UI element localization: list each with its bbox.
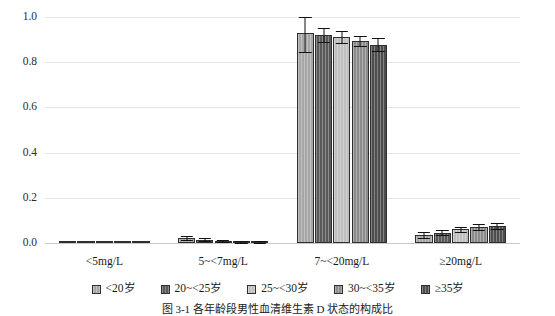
bar[interactable]	[77, 241, 94, 243]
bar-slot	[370, 17, 387, 243]
error-bar-cap-top	[217, 240, 229, 241]
y-tick-label: 0.8	[23, 56, 37, 68]
error-bar-cap-bottom	[317, 42, 329, 43]
error-bar-cap-top	[473, 224, 485, 225]
x-tick-label: <5mg/L	[86, 252, 123, 270]
legend-label: ≥35岁	[435, 283, 464, 295]
bar-group	[164, 17, 283, 243]
error-bar-cap-bottom	[491, 229, 503, 230]
legend-swatch-icon	[161, 285, 170, 294]
bar[interactable]	[59, 241, 76, 243]
error-bar-cap-bottom	[199, 241, 211, 242]
error-bar-cap-bottom	[336, 43, 348, 44]
legend-label: 25~<30岁	[261, 283, 308, 295]
bar[interactable]	[96, 241, 113, 243]
error-bar	[323, 28, 324, 42]
legend-item[interactable]: <20岁	[92, 283, 135, 295]
bar-slot	[96, 17, 113, 243]
error-bar-cap-bottom	[436, 235, 448, 236]
bar-slot	[196, 17, 213, 243]
y-tick-label: 0.0	[23, 237, 37, 249]
legend-label: 20~<25岁	[175, 283, 222, 295]
plot-area	[45, 17, 520, 243]
bar-slot	[452, 17, 469, 243]
bar[interactable]	[315, 35, 332, 243]
error-bar-cap-top	[372, 38, 384, 39]
bar-slot	[333, 17, 350, 243]
error-bar-cap-top	[299, 17, 311, 18]
bar-slot	[352, 17, 369, 243]
bar-slot	[215, 17, 232, 243]
error-bar-cap-top	[354, 36, 366, 37]
legend-item[interactable]: 30~<35岁	[334, 283, 395, 295]
bar[interactable]	[297, 33, 314, 243]
bar-group	[401, 17, 520, 243]
error-bar	[360, 36, 361, 46]
axis-baseline	[45, 243, 520, 244]
error-bar-cap-bottom	[454, 232, 466, 233]
bar[interactable]	[114, 241, 131, 243]
bar-slot	[297, 17, 314, 243]
bar[interactable]	[370, 45, 387, 243]
error-bar-cap-top	[317, 28, 329, 29]
error-bar-cap-bottom	[299, 52, 311, 53]
bar-slot	[114, 17, 131, 243]
bar-slot	[434, 17, 451, 243]
x-tick-label: ≥20mg/L	[439, 252, 482, 270]
error-bar-cap-bottom	[372, 51, 384, 52]
error-bar-cap-bottom	[254, 243, 266, 244]
legend-label: 30~<35岁	[348, 283, 395, 295]
legend: <20岁20~<25岁25~<30岁30~<35岁≥35岁	[0, 279, 555, 299]
error-bar	[341, 31, 342, 42]
bar-slot	[77, 17, 94, 243]
bar-slot	[489, 17, 506, 243]
error-bar-cap-bottom	[235, 243, 247, 244]
error-bar-cap-top	[199, 238, 211, 239]
error-bar-cap-bottom	[180, 240, 192, 241]
error-bar-cap-bottom	[217, 242, 229, 243]
error-bar-cap-top	[180, 236, 192, 237]
error-bar-cap-bottom	[473, 230, 485, 231]
bar-group	[45, 17, 164, 243]
legend-label: <20岁	[106, 283, 135, 295]
error-bar	[378, 38, 379, 52]
error-bar	[305, 17, 306, 52]
bar[interactable]	[333, 37, 350, 243]
legend-swatch-icon	[334, 285, 343, 294]
error-bar-cap-top	[436, 230, 448, 231]
x-axis-category-labels: <5mg/L5~<7mg/L7~<20mg/L≥20mg/L	[45, 252, 520, 270]
error-bar-cap-bottom	[354, 46, 366, 47]
bar-group	[283, 17, 402, 243]
error-bar-cap-top	[454, 227, 466, 228]
bar-slot	[251, 17, 268, 243]
y-tick-label: 0.4	[23, 147, 37, 159]
error-bar-cap-top	[418, 232, 430, 233]
bar-slot	[132, 17, 149, 243]
bar-slot	[415, 17, 432, 243]
legend-item[interactable]: 20~<25岁	[161, 283, 222, 295]
bar[interactable]	[132, 241, 149, 243]
legend-swatch-icon	[247, 285, 256, 294]
legend-item[interactable]: 25~<30岁	[247, 283, 308, 295]
y-tick-label: 0.6	[23, 102, 37, 114]
bar[interactable]	[352, 41, 369, 243]
error-bar-cap-top	[336, 31, 348, 32]
bar-slot	[315, 17, 332, 243]
y-tick-label: 0.2	[23, 192, 37, 204]
legend-swatch-icon	[92, 285, 101, 294]
bar-slot	[178, 17, 195, 243]
bar-slot	[59, 17, 76, 243]
y-axis: 0.00.20.40.60.81.0	[0, 0, 45, 313]
legend-item[interactable]: ≥35岁	[421, 283, 464, 295]
figure-caption: 图 3-1 各年龄段男性血清维生素 D 状态的构成比	[0, 303, 555, 316]
legend-swatch-icon	[421, 285, 430, 294]
x-tick-label: 7~<20mg/L	[314, 252, 369, 270]
bar-slot	[233, 17, 250, 243]
x-tick-label: 5~<7mg/L	[199, 252, 248, 270]
y-tick-label: 1.0	[23, 11, 37, 23]
error-bar-cap-bottom	[418, 238, 430, 239]
bar-slot	[470, 17, 487, 243]
error-bar-cap-top	[491, 223, 503, 224]
